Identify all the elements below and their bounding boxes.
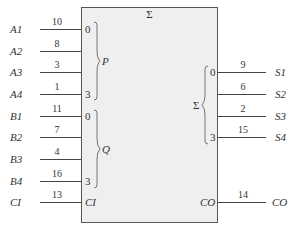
signal-s2: S2 <box>275 88 286 100</box>
port-b4: 3 <box>85 175 91 187</box>
wire-s1 <box>218 72 266 73</box>
pin-s2: 6 <box>231 81 255 92</box>
pin-s1: 9 <box>231 59 255 70</box>
wire-b3 <box>40 159 81 160</box>
signal-s4: S4 <box>275 131 286 143</box>
signal-a1: A1 <box>10 23 22 35</box>
group-q-label: Q <box>102 143 110 155</box>
signal-b1: B1 <box>10 110 22 122</box>
pin-s4: 15 <box>231 124 255 135</box>
wire-a3 <box>40 72 81 73</box>
wire-s3 <box>218 116 266 117</box>
signal-co: CO <box>272 196 287 208</box>
port-a1: 0 <box>85 23 91 35</box>
port-s4: 3 <box>210 131 216 143</box>
signal-a4: A4 <box>10 88 22 100</box>
pin-b3: 4 <box>45 146 69 157</box>
signal-b4: B4 <box>10 175 22 187</box>
group-sum-label: Σ <box>193 99 199 111</box>
port-a4: 3 <box>85 88 91 100</box>
wire-a4 <box>40 94 81 95</box>
wire-b2 <box>40 137 81 138</box>
port-co: CO <box>200 196 215 208</box>
signal-a2: A2 <box>10 45 22 57</box>
wire-a1 <box>40 29 81 30</box>
wire-ci <box>40 202 81 203</box>
pin-co: 14 <box>231 189 255 200</box>
wire-s2 <box>218 94 266 95</box>
signal-ci: CI <box>10 196 21 208</box>
port-ci: CI <box>85 196 96 208</box>
wire-co <box>218 202 266 203</box>
pin-a3: 3 <box>45 59 69 70</box>
bracket-q <box>94 110 100 188</box>
pin-a2: 8 <box>45 38 69 49</box>
wire-a2 <box>40 51 81 52</box>
signal-a3: A3 <box>10 66 22 78</box>
signal-b2: B2 <box>10 131 22 143</box>
group-p-label: P <box>102 55 109 67</box>
signal-b3: B3 <box>10 153 22 165</box>
port-s1: 0 <box>210 66 216 78</box>
bracket-sum <box>202 66 208 144</box>
pin-a4: 1 <box>45 81 69 92</box>
port-b1: 0 <box>85 110 91 122</box>
signal-s1: S1 <box>275 66 286 78</box>
pin-b2: 7 <box>45 124 69 135</box>
signal-s3: S3 <box>275 110 286 122</box>
wire-b4 <box>40 181 81 182</box>
pin-s3: 2 <box>231 103 255 114</box>
pin-b1: 11 <box>45 103 69 114</box>
bracket-p <box>94 22 100 100</box>
wire-b1 <box>40 116 81 117</box>
pin-b4: 16 <box>45 168 69 179</box>
pin-a1: 10 <box>45 16 69 27</box>
wire-s4 <box>218 137 266 138</box>
pin-ci: 13 <box>45 189 69 200</box>
